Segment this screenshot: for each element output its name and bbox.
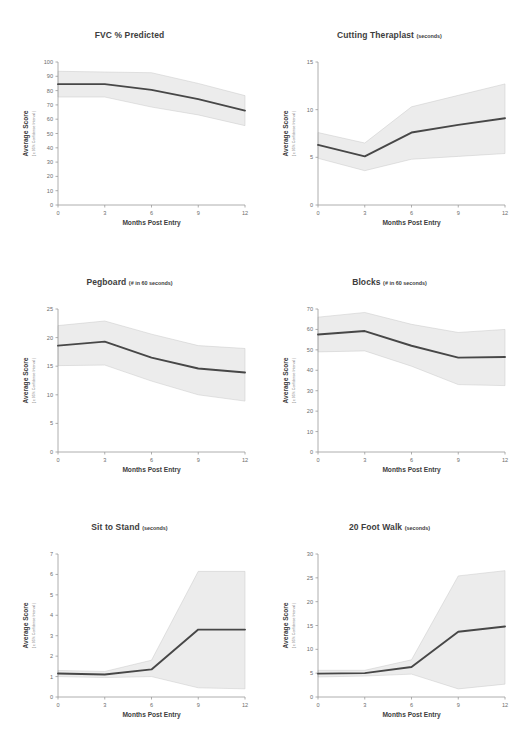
x-tick-label: 6 xyxy=(150,702,153,708)
y-tick-label: 10 xyxy=(47,392,53,398)
x-tick-label: 12 xyxy=(502,702,508,708)
x-tick-label: 0 xyxy=(316,457,319,463)
x-tick-label: 6 xyxy=(410,210,413,216)
confidence-interval-band xyxy=(318,312,505,385)
y-tick-label: 2 xyxy=(50,653,53,659)
x-axis-title: Months Post Entry xyxy=(382,711,441,719)
y-axis-title: Average Score xyxy=(282,110,290,156)
confidence-interval-band xyxy=(318,84,505,171)
plot-area: 051015036912Months Post EntryAverage Sco… xyxy=(260,20,519,263)
y-tick-label: 0 xyxy=(310,202,313,208)
y-axis-subtitle: ( ± 95% Confidence Interval ) xyxy=(292,603,296,648)
y-tick-label: 20 xyxy=(307,408,313,414)
y-tick-label: 15 xyxy=(47,363,53,369)
x-tick-label: 12 xyxy=(242,702,248,708)
x-tick-label: 12 xyxy=(502,210,508,216)
y-tick-label: 25 xyxy=(47,306,53,312)
chart-panel-top-right: Cutting Theraplast (seconds)051015036912… xyxy=(260,20,519,263)
x-tick-label: 0 xyxy=(56,210,59,216)
y-tick-label: 5 xyxy=(310,154,313,160)
y-tick-label: 1 xyxy=(50,674,53,680)
y-tick-label: 50 xyxy=(307,347,313,353)
y-tick-label: 20 xyxy=(307,599,313,605)
x-tick-label: 0 xyxy=(56,702,59,708)
x-tick-label: 6 xyxy=(150,457,153,463)
y-axis-subtitle: ( ± 95% Confidence Interval ) xyxy=(292,111,296,156)
chart-panel-bottom-right: 20 Foot Walk (seconds)051015202530036912… xyxy=(260,512,519,730)
y-axis-subtitle: ( ± 95% Confidence Interval ) xyxy=(32,603,36,648)
x-axis-title: Months Post Entry xyxy=(382,466,441,474)
y-tick-label: 5 xyxy=(310,670,313,676)
x-axis-title: Months Post Entry xyxy=(122,711,181,719)
y-tick-label: 25 xyxy=(307,575,313,581)
x-axis-title: Months Post Entry xyxy=(382,219,441,227)
x-tick-label: 3 xyxy=(103,457,106,463)
x-tick-label: 3 xyxy=(363,210,366,216)
y-tick-label: 0 xyxy=(310,449,313,455)
y-tick-label: 40 xyxy=(47,145,53,151)
x-tick-label: 12 xyxy=(242,210,248,216)
x-axis-title: Months Post Entry xyxy=(122,466,181,474)
y-axis-subtitle: ( ± 95% Confidence Interval ) xyxy=(32,358,36,403)
y-tick-label: 30 xyxy=(307,551,313,557)
y-tick-label: 0 xyxy=(310,694,313,700)
y-tick-label: 90 xyxy=(47,73,53,79)
y-tick-label: 0 xyxy=(50,694,53,700)
x-tick-label: 3 xyxy=(103,702,106,708)
y-tick-label: 0 xyxy=(50,449,53,455)
y-axis-title: Average Score xyxy=(282,602,290,648)
y-tick-label: 40 xyxy=(307,367,313,373)
y-axis-title: Average Score xyxy=(22,110,30,156)
plot-area: 0510152025036912Months Post EntryAverage… xyxy=(0,267,259,510)
x-tick-label: 6 xyxy=(410,702,413,708)
y-tick-label: 10 xyxy=(307,429,313,435)
y-tick-label: 6 xyxy=(50,571,53,577)
x-tick-label: 12 xyxy=(502,457,508,463)
plot-area: 051015202530036912Months Post EntryAvera… xyxy=(260,512,519,730)
figure-panel-grid: FVC % Predicted0102030405060708090100036… xyxy=(0,0,519,730)
y-tick-label: 70 xyxy=(307,306,313,312)
x-tick-label: 3 xyxy=(363,702,366,708)
x-tick-label: 3 xyxy=(363,457,366,463)
chart-panel-bottom-left: Sit to Stand (seconds)01234567036912Mont… xyxy=(0,512,259,730)
y-axis-subtitle: ( ± 95% Confidence Interval ) xyxy=(32,111,36,156)
y-tick-label: 10 xyxy=(307,107,313,113)
y-tick-label: 20 xyxy=(47,173,53,179)
y-tick-label: 10 xyxy=(47,188,53,194)
y-tick-label: 4 xyxy=(50,612,53,618)
y-tick-label: 30 xyxy=(47,159,53,165)
x-tick-label: 9 xyxy=(197,210,200,216)
x-tick-label: 0 xyxy=(316,702,319,708)
x-tick-label: 9 xyxy=(197,702,200,708)
x-tick-label: 3 xyxy=(103,210,106,216)
chart-panel-middle-right: Blocks (# in 60 seconds)0102030405060700… xyxy=(260,267,519,510)
y-tick-label: 5 xyxy=(50,592,53,598)
y-tick-label: 100 xyxy=(44,59,53,65)
y-tick-label: 30 xyxy=(307,388,313,394)
plot-area: 01234567036912Months Post EntryAverage S… xyxy=(0,512,259,730)
y-tick-label: 15 xyxy=(307,59,313,65)
y-axis-title: Average Score xyxy=(22,357,30,403)
x-tick-label: 12 xyxy=(242,457,248,463)
x-tick-label: 0 xyxy=(56,457,59,463)
x-tick-label: 9 xyxy=(457,457,460,463)
y-axis-subtitle: ( ± 95% Confidence Interval ) xyxy=(292,358,296,403)
y-axis-title: Average Score xyxy=(22,602,30,648)
y-tick-label: 20 xyxy=(47,335,53,341)
y-tick-label: 10 xyxy=(307,646,313,652)
y-tick-label: 3 xyxy=(50,633,53,639)
chart-panel-top-left: FVC % Predicted0102030405060708090100036… xyxy=(0,20,259,263)
y-tick-label: 80 xyxy=(47,88,53,94)
confidence-interval-band xyxy=(58,321,245,401)
x-tick-label: 9 xyxy=(457,702,460,708)
y-tick-label: 60 xyxy=(47,116,53,122)
x-axis-title: Months Post Entry xyxy=(122,219,181,227)
x-tick-label: 9 xyxy=(197,457,200,463)
y-tick-label: 60 xyxy=(307,326,313,332)
chart-panel-middle-left: Pegboard (# in 60 seconds)05101520250369… xyxy=(0,267,259,510)
y-tick-label: 7 xyxy=(50,551,53,557)
y-tick-label: 70 xyxy=(47,102,53,108)
confidence-interval-band xyxy=(58,71,245,125)
y-tick-label: 0 xyxy=(50,202,53,208)
plot-area: 0102030405060708090100036912Months Post … xyxy=(0,20,259,263)
